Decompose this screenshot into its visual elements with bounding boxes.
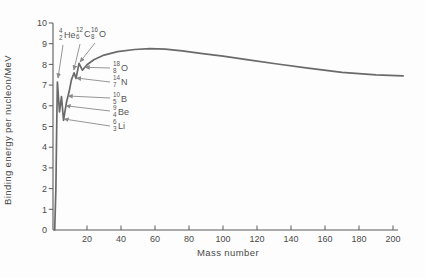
nuclide-symbol: C [84, 29, 91, 39]
y-tick-label: 8 [42, 60, 47, 70]
nuclide-label-B-10: 105B [113, 91, 127, 105]
binding-energy-curve [55, 49, 404, 230]
y-tick-label: 5 [42, 122, 47, 132]
y-tick-label: 2 [42, 184, 47, 194]
x-tick-label: 80 [184, 234, 194, 244]
x-tick-label: 180 [351, 234, 366, 244]
chart-canvas: Binding energy per nucleon/MeV Mass numb… [0, 0, 425, 278]
nuclide-label-He-4: 42He [59, 27, 76, 41]
y-axis-title: Binding energy per nucleon/MeV [2, 55, 13, 205]
y-axis-ticks: 012345678910 [37, 18, 53, 235]
annotation-arrow-Li-6 [64, 119, 110, 126]
annotation-arrow-O-16 [80, 43, 95, 62]
x-tick-label: 120 [249, 234, 264, 244]
y-tick-label: 1 [42, 205, 47, 215]
x-axis-title: Mass number [197, 247, 259, 258]
nuclide-label-Li-6: 63Li [113, 118, 125, 132]
nuclide-symbol: N [121, 77, 128, 87]
nuclide-label-Be-9: 94Be [113, 104, 129, 118]
nuclide-atomic-number: 2 [59, 34, 63, 41]
annotation-arrow-B-10 [68, 96, 110, 98]
y-tick-label: 10 [37, 18, 47, 28]
y-tick-label: 4 [42, 142, 47, 152]
nuclide-atomic-number: 6 [76, 33, 80, 40]
y-tick-label: 6 [42, 101, 47, 111]
nuclide-symbol: B [121, 94, 127, 104]
y-tick-label: 3 [42, 163, 47, 173]
binding-energy-figure: Binding energy per nucleon/MeV Mass numb… [0, 0, 425, 278]
nuclide-atomic-number: 4 [113, 111, 117, 118]
nuclide-atomic-number: 8 [113, 67, 117, 74]
nuclide-symbol: Li [118, 121, 125, 131]
nuclide-annotations: 42He126C168O188O147N105B94Be63Li [58, 26, 129, 132]
annotation-arrow-Be-9 [66, 106, 110, 111]
nuclide-label-C-12: 126C [76, 26, 91, 40]
x-tick-label: 140 [283, 234, 298, 244]
x-tick-label: 160 [317, 234, 332, 244]
annotation-arrow-O-18 [85, 67, 110, 68]
nuclide-symbol: Be [118, 107, 129, 117]
x-axis-ticks: 20406080100120140160180200 [82, 226, 401, 245]
x-tick-label: 200 [385, 234, 400, 244]
annotation-arrow-He-4 [58, 45, 63, 78]
x-tick-label: 100 [215, 234, 230, 244]
nuclide-label-N-14: 147N [113, 74, 128, 88]
nuclide-label-O-18: 188O [113, 60, 128, 74]
x-tick-label: 20 [82, 234, 92, 244]
nuclide-symbol: He [64, 30, 76, 40]
x-tick-label: 60 [150, 234, 160, 244]
y-tick-label: 7 [42, 80, 47, 90]
nuclide-label-O-16: 168O [91, 26, 106, 40]
annotation-arrow-N-14 [76, 78, 110, 82]
nuclide-atomic-number: 3 [113, 125, 117, 132]
nuclide-symbol: O [99, 29, 106, 39]
y-tick-label: 0 [42, 225, 47, 235]
x-tick-label: 40 [116, 234, 126, 244]
nuclide-atomic-number: 7 [113, 81, 117, 88]
nuclide-symbol: O [121, 63, 128, 73]
y-tick-label: 9 [42, 39, 47, 49]
nuclide-atomic-number: 8 [91, 33, 95, 40]
